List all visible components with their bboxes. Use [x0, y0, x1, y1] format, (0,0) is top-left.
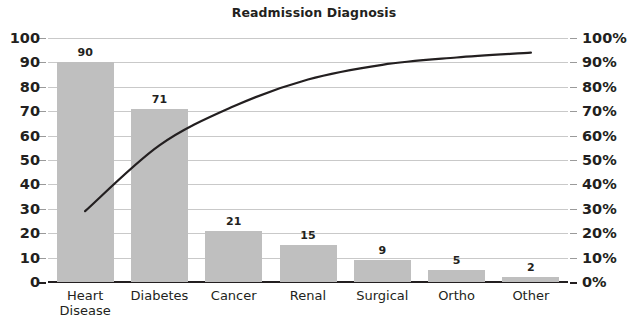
y-axis-label-left: 80	[0, 79, 40, 95]
y-axis-label-left: 90	[0, 54, 40, 70]
y-axis-tick-right	[570, 209, 577, 210]
y-axis-tick-right	[570, 62, 577, 63]
y-axis-label-right: 0%	[582, 274, 628, 290]
y-axis-label-left: 50	[0, 152, 40, 168]
y-axis-tick-right	[570, 87, 577, 88]
y-axis-label-left: 100	[0, 30, 40, 46]
y-axis-label-right: 20%	[582, 225, 628, 241]
y-axis-tick-right	[570, 136, 577, 137]
y-axis-label-left: 10	[0, 250, 40, 266]
y-axis-label-right: 100%	[582, 30, 628, 46]
x-axis-category-label: Other	[476, 288, 586, 303]
y-axis-tick-right	[570, 184, 577, 185]
y-axis-tick-left	[39, 87, 46, 88]
y-axis-tick-left	[39, 258, 46, 259]
plot-area: 90712115952	[48, 38, 568, 282]
y-axis-label-right: 90%	[582, 54, 628, 70]
y-axis-label-right: 50%	[582, 152, 628, 168]
y-axis-tick-right	[570, 282, 577, 284]
y-axis-label-right: 60%	[582, 128, 628, 144]
y-axis-tick-left	[39, 38, 46, 39]
y-axis-label-right: 10%	[582, 250, 628, 266]
y-axis-label-left: 40	[0, 176, 40, 192]
y-axis-label-right: 80%	[582, 79, 628, 95]
y-axis-tick-left	[39, 184, 46, 185]
y-axis-tick-right	[570, 160, 577, 161]
y-axis-label-left: 30	[0, 201, 40, 217]
y-axis-tick-right	[570, 111, 577, 112]
y-axis-tick-left	[39, 282, 46, 284]
cumulative-percent-line	[48, 38, 568, 282]
chart-title: Readmission Diagnosis	[0, 5, 628, 20]
y-axis-label-left: 60	[0, 128, 40, 144]
y-axis-label-right: 40%	[582, 176, 628, 192]
y-axis-tick-left	[39, 136, 46, 137]
y-axis-tick-left	[39, 62, 46, 63]
y-axis-tick-right	[570, 38, 577, 39]
y-axis-tick-left	[39, 160, 46, 161]
y-axis-tick-left	[39, 233, 46, 234]
y-axis-label-right: 70%	[582, 103, 628, 119]
y-axis-tick-right	[570, 233, 577, 234]
y-axis-label-right: 30%	[582, 201, 628, 217]
pareto-chart: Readmission Diagnosis 90712115952 00%101…	[0, 0, 628, 325]
y-axis-label-left: 20	[0, 225, 40, 241]
y-axis-label-left: 70	[0, 103, 40, 119]
y-axis-tick-right	[570, 258, 577, 259]
y-axis-tick-left	[39, 209, 46, 210]
y-axis-tick-left	[39, 111, 46, 112]
